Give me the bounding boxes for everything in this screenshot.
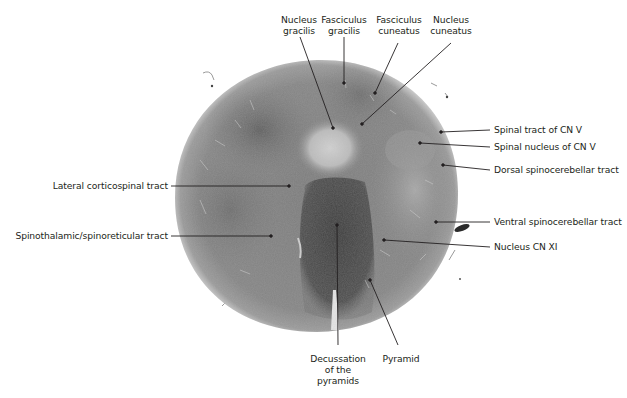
label-spinal-nucleus-cn-v: Spinal nucleus of CN V — [494, 141, 596, 152]
label-nucleus-cuneatus: Nucleus cuneatus — [430, 14, 471, 36]
label-decussation: Decussation of the pyramids — [310, 353, 365, 386]
tissue-section — [170, 55, 465, 340]
label-lateral-corticospinal: Lateral corticospinal tract — [53, 180, 168, 191]
label-line: of the — [310, 364, 365, 375]
label-line: cuneatus — [376, 25, 422, 36]
label-line: Fasciculus — [376, 14, 422, 25]
label-line: Nucleus — [281, 14, 317, 25]
label-spinothalamic: Spinothalamic/spinoreticular tract — [15, 230, 168, 241]
leader-spinal-tract-cn-v — [441, 130, 490, 132]
label-line: Fasciculus — [321, 14, 367, 25]
label-ventral-spinocerebellar: Ventral spinocerebellar tract — [494, 216, 622, 227]
label-nucleus-gracilis: Nucleus gracilis — [281, 14, 317, 36]
label-fasciculus-cuneatus: Fasciculus cuneatus — [376, 14, 422, 36]
label-fasciculus-gracilis: Fasciculus gracilis — [321, 14, 367, 36]
spinal-medulla-section-image — [0, 0, 627, 398]
label-line: gracilis — [281, 25, 317, 36]
label-nucleus-cn-xi: Nucleus CN XI — [494, 241, 557, 252]
label-line: Nucleus — [430, 14, 471, 25]
label-line: gracilis — [321, 25, 367, 36]
histology-figure: Nucleus gracilis Fasciculus gracilis Fas… — [0, 0, 627, 398]
label-line: Decussation — [310, 353, 365, 364]
label-spinal-tract-cn-v: Spinal tract of CN V — [494, 124, 582, 135]
label-pyramid: Pyramid — [382, 353, 419, 364]
label-dorsal-spinocerebellar: Dorsal spinocerebellar tract — [494, 164, 619, 175]
label-line: cuneatus — [430, 25, 471, 36]
label-line: pyramids — [310, 375, 365, 386]
